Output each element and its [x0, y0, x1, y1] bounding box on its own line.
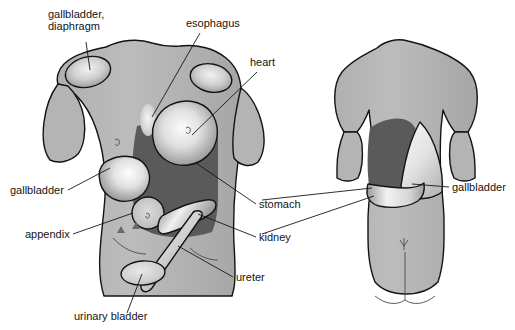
label-gallbladder-posterior: gallbladder: [452, 181, 506, 193]
label-urinary-bladder: urinary bladder: [74, 310, 148, 322]
label-kidney: kidney: [259, 231, 291, 243]
diagram-canvas: gallbladder,diaphragm esophagus heart ga…: [0, 0, 515, 330]
label-gallbladder-anterior: gallbladder: [10, 184, 64, 196]
gallbladder-patch: [99, 156, 149, 201]
label-ureter: ureter: [236, 271, 265, 283]
label-gallbladder-diaphragm: gallbladder,diaphragm: [48, 8, 104, 32]
label-stomach: stomach: [259, 198, 301, 210]
label-esophagus: esophagus: [186, 17, 240, 29]
heart-patch: [153, 101, 218, 165]
referred-pain-diagram: gallbladder,diaphragm esophagus heart ga…: [0, 0, 515, 330]
label-heart: heart: [250, 56, 275, 68]
posterior-left-arm: [337, 132, 362, 181]
posterior-right-arm: [450, 132, 475, 181]
label-appendix: appendix: [25, 228, 70, 240]
